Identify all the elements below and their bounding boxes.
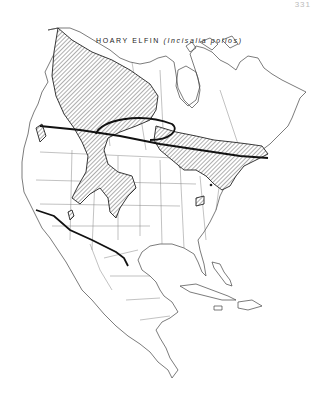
cuba	[180, 284, 236, 300]
arctic-islands	[186, 36, 238, 52]
locality-dot	[210, 184, 213, 187]
range-west	[52, 28, 158, 218]
hudson-bay	[176, 66, 200, 106]
range-patch-appalachian	[196, 196, 204, 206]
range-patch-colorado	[68, 210, 74, 220]
jamaica	[214, 306, 222, 310]
range-map	[0, 0, 323, 398]
hispaniola	[238, 300, 262, 310]
bahamas	[212, 262, 232, 286]
